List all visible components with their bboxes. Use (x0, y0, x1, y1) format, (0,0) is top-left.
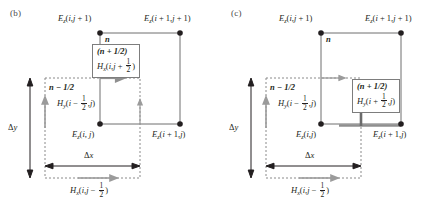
panel-b-graphics (0, 0, 221, 207)
update-box-field-expression: Hy(i + 12,j) (357, 92, 395, 109)
delta-y-label: Δy (8, 122, 17, 132)
node-label-top-right: Ez(i + 1,j + 1) (144, 14, 191, 24)
node-label-bottom-right: Ez(i + 1,j) (373, 130, 406, 140)
update-box-field-expression: Hx(i,j + 12) (97, 57, 135, 74)
delta-x-label: Δx (305, 150, 314, 160)
delta-x-dimension-arrow (45, 163, 140, 169)
node-label-bottom-left: Ez(i, j) (72, 130, 94, 140)
node-label-bottom-left: Ez(i,j) (296, 130, 316, 140)
delta-y-label: Δy (229, 122, 238, 132)
delta-y-dimension-arrow (248, 78, 254, 178)
time-label-n-minus-half: n − 1/2 (270, 82, 295, 92)
hy-right-arrow (138, 100, 142, 125)
delta-y-dimension-arrow (27, 78, 33, 178)
hx-bottom-arrow (78, 175, 117, 181)
panel-c-graphics (221, 0, 442, 207)
hy-left-label: Hy(i − 12,j) (278, 95, 316, 111)
panel-b: (b) (0, 0, 221, 207)
dual-cell-dashed-box (45, 78, 140, 178)
time-label-n-minus-half: n − 1/2 (49, 82, 74, 92)
delta-x-dimension-arrow (266, 163, 361, 169)
hx-top-arrow (321, 76, 345, 81)
time-label-n: n (326, 34, 331, 44)
node-label-top-right: Ez(i + 1,j + 1) (365, 14, 412, 24)
delta-x-label: Δx (84, 150, 93, 160)
hy-left-label: Hy(i − 12,j) (57, 95, 95, 111)
hx-bottom-arrow (299, 175, 338, 181)
node-label-bottom-right: Ez(i + 1,j) (152, 130, 185, 140)
hx-bottom-label: Hx(i,j − 12) (291, 182, 329, 198)
update-box-time-level: (n + 1/2) (357, 82, 395, 92)
node-label-top-left: Ez(i,j + 1) (58, 14, 91, 24)
h-field-update-box: (n + 1/2) Hx(i,j + 12) (92, 44, 140, 78)
panel-c: (c) (221, 0, 442, 207)
h-field-update-box: (n + 1/2) Hy(i + 12,j) (352, 79, 400, 113)
hy-left-arrow (42, 97, 48, 128)
update-box-time-level: (n + 1/2) (97, 47, 135, 57)
hy-left-arrow (263, 97, 269, 128)
figure-yee-cell-panels: (b) (0, 0, 442, 207)
node-label-top-left: Ez(i,j + 1) (279, 14, 312, 24)
hx-bottom-label: Hx(i,j − 12) (70, 182, 108, 198)
time-label-n: n (105, 34, 110, 44)
dual-cell-dashed-box (266, 78, 361, 178)
